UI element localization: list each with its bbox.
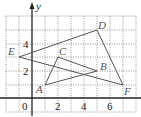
x-tick-6: 6 — [107, 100, 113, 112]
y-axis-label: y — [35, 0, 41, 12]
point-label-D: D — [97, 19, 106, 31]
y-tick-4: 4 — [23, 38, 29, 50]
point-label-F: F — [123, 85, 131, 97]
point-label-E: E — [7, 45, 15, 57]
point-label-B: B — [100, 60, 107, 72]
y-tick-2: 2 — [23, 65, 29, 77]
coordinate-diagram: y 0 2 4 6 2 4 A B C D E F — [0, 0, 141, 117]
point-label-C: C — [59, 45, 67, 57]
y-axis-arrow-icon — [30, 2, 35, 9]
origin-label: 0 — [22, 100, 28, 112]
x-tick-4: 4 — [81, 100, 87, 112]
x-tick-2: 2 — [55, 100, 61, 112]
point-label-A: A — [35, 83, 43, 95]
